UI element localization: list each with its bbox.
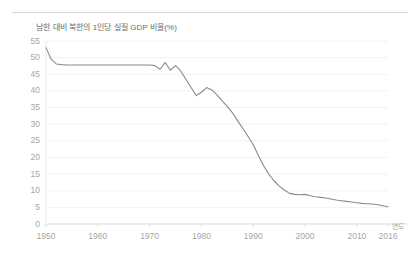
line-chart-svg [0,0,420,269]
y-tick-label: 20 [18,153,40,162]
x-tick-label: 1990 [233,232,273,241]
x-tick-label: 1970 [130,232,170,241]
y-tick-label: 0 [18,220,40,229]
y-tick-label: 45 [18,70,40,79]
y-tick-label: 55 [18,37,40,46]
x-tick-label: 1980 [181,232,221,241]
y-tick-label: 40 [18,86,40,95]
y-tick-label: 15 [18,170,40,179]
x-tick-label: 1960 [78,232,118,241]
gridlines-group [46,41,408,227]
x-tick-label: 1950 [26,232,66,241]
y-tick-label: 50 [18,53,40,62]
y-tick-label: 10 [18,186,40,195]
x-axis-title: 연도 [392,221,404,231]
x-tick-label: 2016 [368,232,408,241]
x-tick-label: 2000 [285,232,325,241]
data-line [46,48,388,207]
y-tick-label: 35 [18,103,40,112]
chart-plot-area: 남한 대비 북한의 1인당 실질 GDP 비율(%) 0510152025303… [0,0,420,269]
y-tick-label: 25 [18,136,40,145]
y-tick-label: 30 [18,120,40,129]
series-group [46,48,388,207]
chart-figure: 남한 대비 북한의 1인당 실질 GDP 비율(%) 0510152025303… [0,0,420,269]
y-tick-label: 5 [18,203,40,212]
